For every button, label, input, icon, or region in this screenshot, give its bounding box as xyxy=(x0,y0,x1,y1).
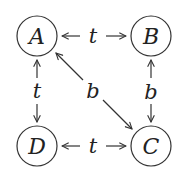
edge-a-c: b xyxy=(56,53,132,129)
node-b-label: B xyxy=(142,24,159,49)
arrow-down-right-icon xyxy=(103,100,132,129)
edge-a-b: t xyxy=(62,24,126,48)
node-c-label: C xyxy=(143,134,160,159)
diagram-canvas: A B C D t t t xyxy=(0,0,189,182)
node-c: C xyxy=(131,126,171,166)
edge-d-c: t xyxy=(62,134,126,158)
node-a: A xyxy=(17,16,57,56)
edge-d-c-label: t xyxy=(89,134,98,158)
arrow-up-left-icon xyxy=(56,53,83,80)
edge-a-d-label: t xyxy=(33,79,42,103)
edge-b-c: b xyxy=(144,60,157,122)
node-b: B xyxy=(131,16,171,56)
node-a-label: A xyxy=(27,24,45,49)
node-d: D xyxy=(17,126,57,166)
edge-a-c-label: b xyxy=(86,79,99,103)
node-d-label: D xyxy=(27,134,46,159)
edge-a-d: t xyxy=(33,60,42,122)
graph-diagram: A B C D t t t xyxy=(0,0,189,182)
edge-b-c-label: b xyxy=(144,80,157,104)
edge-a-b-label: t xyxy=(89,24,98,48)
